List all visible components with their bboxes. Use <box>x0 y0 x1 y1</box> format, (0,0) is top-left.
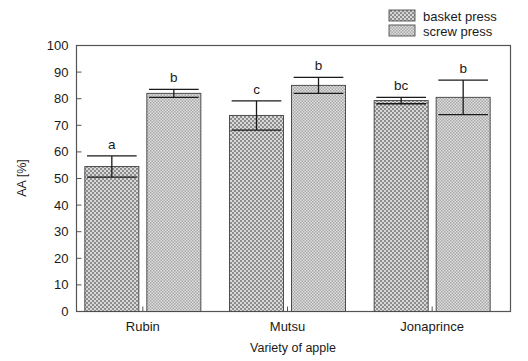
legend-swatch-screw-press <box>389 25 415 36</box>
y-tick-label: 90 <box>54 65 68 80</box>
chart-svg: 0102030405060708090100 abcbbcb RubinMuts… <box>0 0 528 361</box>
y-tick-label: 100 <box>47 38 69 53</box>
x-tick-label-rubin: Rubin <box>126 319 160 334</box>
bar-rubin-basket-press <box>85 167 139 312</box>
y-axis-title: AA [%] <box>15 159 29 197</box>
y-tick-label: 70 <box>54 118 68 133</box>
legend-label-screw-press: screw press <box>423 24 493 39</box>
bar-mutsu-basket-press <box>230 115 284 311</box>
y-tick-label: 30 <box>54 224 68 239</box>
y-tick-label: 10 <box>54 277 68 292</box>
significance-letter: c <box>253 82 260 97</box>
bar-jonaprince-screw-press <box>436 97 490 311</box>
y-tick-label: 0 <box>61 304 68 319</box>
x-tick-label-mutsu: Mutsu <box>270 319 305 334</box>
y-tick-label: 20 <box>54 251 68 266</box>
y-tick-label: 50 <box>54 171 68 186</box>
bar-mutsu-screw-press <box>292 85 346 311</box>
significance-letter: b <box>459 61 467 76</box>
significance-letter: bc <box>394 78 409 93</box>
bar-jonaprince-basket-press <box>374 101 428 312</box>
x-axis-title: Variety of apple <box>250 341 336 355</box>
chart-legend: basket pressscrew press <box>389 9 497 39</box>
legend-swatch-basket-press <box>389 10 415 21</box>
significance-letter: b <box>170 70 178 85</box>
x-tick-label-jonaprince: Jonaprince <box>400 319 464 334</box>
significance-letter: b <box>315 58 323 73</box>
significance-letter: a <box>108 137 116 152</box>
y-tick-label: 80 <box>54 91 68 106</box>
bar-rubin-screw-press <box>147 93 201 311</box>
legend-label-basket-press: basket press <box>423 9 497 24</box>
y-tick-label: 40 <box>54 198 68 213</box>
y-tick-label: 60 <box>54 144 68 159</box>
bar-chart-figure: 0102030405060708090100 abcbbcb RubinMuts… <box>0 0 528 361</box>
